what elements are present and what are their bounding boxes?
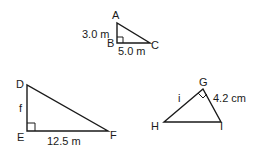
- similar-triangles-figure: A B C 3.0 m 5.0 m D E F f 12.5 m G H I i…: [0, 0, 263, 154]
- vertex-label-c: C: [151, 39, 159, 51]
- vertex-label-a: A: [112, 9, 120, 21]
- side-label-gi: 4.2 cm: [213, 92, 246, 104]
- side-label-de: f: [19, 102, 23, 114]
- right-angle-marker-e: [27, 123, 35, 131]
- vertex-label-e: E: [17, 131, 24, 143]
- triangle-abc-shape: [117, 23, 150, 43]
- side-label-bc: 5.0 m: [118, 45, 146, 57]
- vertex-label-f: F: [110, 129, 117, 141]
- right-angle-marker-b: [117, 37, 123, 43]
- triangle-def: D E F f 12.5 m: [16, 78, 117, 147]
- vertex-label-d: D: [16, 78, 24, 90]
- side-label-hg: i: [178, 92, 180, 104]
- vertex-label-i: I: [220, 120, 223, 132]
- triangle-abc: A B C 3.0 m 5.0 m: [82, 9, 159, 57]
- side-label-ef: 12.5 m: [47, 135, 81, 147]
- triangle-def-shape: [27, 85, 108, 131]
- triangle-ghi: G H I i 4.2 cm: [151, 76, 246, 132]
- vertex-label-h: H: [151, 120, 159, 132]
- side-label-ab: 3.0 m: [82, 28, 110, 40]
- vertex-label-g: G: [199, 76, 208, 88]
